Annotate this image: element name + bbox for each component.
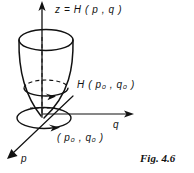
level-curve-arrowhead xyxy=(45,93,56,100)
label-surface-value-text: H ( p₀ , q₀ ) xyxy=(77,79,135,90)
figure-caption: Fig. 4.6 xyxy=(140,152,175,164)
label-z-equation-text: z = H ( p , q ) xyxy=(55,4,122,15)
label-base-point-text: ( p₀ , q₀ ) xyxy=(57,132,104,143)
label-base-point: ( p₀ , q₀ ) xyxy=(57,132,104,143)
level-curve-back-dashed xyxy=(24,80,68,88)
label-surface-value: H ( p₀ , q₀ ) xyxy=(77,79,135,90)
base-ellipse xyxy=(17,108,71,132)
surface-left-profile xyxy=(19,40,41,116)
figure-caption-text: Fig. 4.6 xyxy=(140,152,175,164)
label-z-equation: z = H ( p , q ) xyxy=(55,4,122,15)
p-axis xyxy=(7,96,73,159)
label-axis-q: q xyxy=(113,119,119,130)
label-axis-p-text: p xyxy=(21,153,27,164)
surface-right-profile xyxy=(44,40,73,118)
surface-top-rim xyxy=(19,30,73,51)
z-axis xyxy=(38,1,45,116)
figure-container: z = H ( p , q ) H ( p₀ , q₀ ) ( p₀ , q₀ … xyxy=(0,0,194,173)
surface-paraboloid xyxy=(19,30,73,119)
label-axis-p: p xyxy=(21,153,27,164)
label-axis-q-text: q xyxy=(113,119,119,130)
